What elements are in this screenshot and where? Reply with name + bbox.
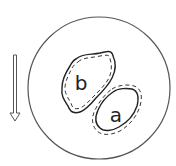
region-a-label: a	[110, 103, 122, 127]
direction-arrow-icon	[10, 55, 20, 121]
region-b-label: b	[75, 71, 88, 95]
diagram-canvas: b a	[0, 0, 176, 166]
outer-circle	[28, 17, 170, 159]
region-b: b	[62, 51, 115, 112]
region-b-outline-solid	[62, 51, 115, 112]
region-a: a	[93, 85, 142, 134]
